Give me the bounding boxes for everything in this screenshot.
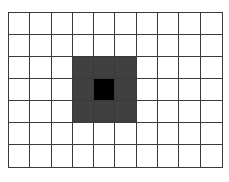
grid-cell	[94, 145, 115, 167]
grid-cell-shaded	[115, 57, 136, 79]
grid-cell-shaded	[115, 101, 136, 123]
grid-cell	[52, 123, 73, 145]
grid-cell	[115, 13, 136, 35]
grid-cell	[179, 57, 200, 79]
grid-cell	[158, 57, 179, 79]
grid-cell	[30, 13, 51, 35]
grid-cell	[179, 35, 200, 57]
grid-cell	[115, 123, 136, 145]
grid-cell	[137, 35, 158, 57]
grid-cell	[30, 35, 51, 57]
grid-cell	[73, 123, 94, 145]
grid-cell	[158, 13, 179, 35]
grid-cell	[9, 79, 30, 101]
grid-cell-center	[94, 79, 115, 101]
grid-cell	[30, 57, 51, 79]
grid-cell	[201, 101, 222, 123]
grid-cell	[201, 145, 222, 167]
grid-cell	[73, 145, 94, 167]
grid-cell	[52, 145, 73, 167]
grid-cell	[94, 123, 115, 145]
grid-cell	[137, 101, 158, 123]
grid-cell	[9, 35, 30, 57]
grid-cell	[115, 145, 136, 167]
grid-cell	[158, 35, 179, 57]
grid-cell	[137, 145, 158, 167]
grid-cell	[94, 13, 115, 35]
grid-cell	[73, 13, 94, 35]
grid-cell	[158, 79, 179, 101]
grid-cell	[52, 101, 73, 123]
grid-cell	[158, 123, 179, 145]
grid-cell	[30, 79, 51, 101]
grid-cell	[137, 57, 158, 79]
grid-cell	[73, 35, 94, 57]
grid-cell	[137, 123, 158, 145]
grid-cell	[52, 13, 73, 35]
grid-cell	[137, 79, 158, 101]
grid-cell	[137, 13, 158, 35]
grid-cell	[115, 35, 136, 57]
grid-cell	[52, 35, 73, 57]
grid-cell-shaded	[94, 57, 115, 79]
grid-cell	[179, 101, 200, 123]
grid-cell	[179, 79, 200, 101]
grid-cell	[9, 145, 30, 167]
grid-cell	[158, 101, 179, 123]
grid-cell	[30, 123, 51, 145]
grid-cell	[201, 123, 222, 145]
grid-cell	[9, 101, 30, 123]
grid-cell	[158, 145, 179, 167]
grid-cell	[201, 57, 222, 79]
grid-cell-shaded	[73, 79, 94, 101]
grid-cell-shaded	[94, 101, 115, 123]
grid-cell	[52, 79, 73, 101]
grid-cell	[9, 123, 30, 145]
grid-cell-shaded	[73, 57, 94, 79]
grid-cell	[94, 35, 115, 57]
grid-cell-shaded	[73, 101, 94, 123]
grid-cell	[179, 123, 200, 145]
grid-cell	[201, 79, 222, 101]
grid-cell	[201, 13, 222, 35]
grid-cell	[9, 13, 30, 35]
pixel-grid	[8, 12, 223, 168]
grid-cell	[52, 57, 73, 79]
grid-cell	[9, 57, 30, 79]
grid-cell	[179, 145, 200, 167]
grid-cell-shaded	[115, 79, 136, 101]
grid-cell	[30, 145, 51, 167]
grid-cell	[179, 13, 200, 35]
grid-cell	[201, 35, 222, 57]
grid-cell	[30, 101, 51, 123]
